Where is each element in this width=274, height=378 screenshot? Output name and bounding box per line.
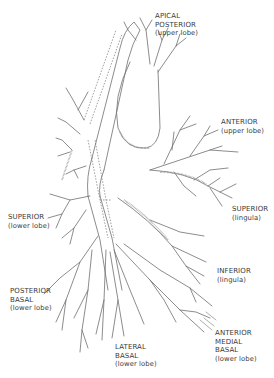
- label-line: POSTERIOR: [155, 21, 198, 30]
- label-anterior-upper: ANTERIOR (upper lobe): [221, 118, 264, 135]
- label-sub: (upper lobe): [155, 29, 198, 38]
- label-line: POSTERIOR: [10, 287, 52, 296]
- label-line: ANTERIOR: [221, 118, 264, 127]
- label-line: BASAL: [10, 296, 52, 305]
- label-sub: (lingula): [217, 276, 251, 285]
- label-sub: (lower lobe): [8, 222, 50, 231]
- superior-lower-branches: [48, 194, 90, 244]
- label-line: MEDIAL: [215, 338, 257, 347]
- label-sub: (lower lobe): [215, 355, 257, 364]
- label-line: BASAL: [215, 346, 257, 355]
- bronchial-tree-diagram: APICAL POSTERIOR (upper lobe) ANTERIOR (…: [0, 0, 274, 378]
- label-line: ANTERIOR: [215, 329, 257, 338]
- label-line: LATERAL: [115, 343, 157, 352]
- label-sub: (lower lobe): [115, 360, 157, 369]
- lingula-superior-branches: [150, 168, 236, 206]
- label-sub: (lingula): [232, 214, 268, 223]
- anterior-medial-basal-branches: [116, 244, 216, 332]
- label-anterior-medial-basal: ANTERIOR MEDIAL BASAL (lower lobe): [215, 329, 257, 363]
- label-line: SUPERIOR: [8, 213, 50, 222]
- label-lateral-basal: LATERAL BASAL (lower lobe): [115, 343, 157, 369]
- label-superior-lingula: SUPERIOR (lingula): [232, 205, 268, 222]
- label-posterior-basal: POSTERIOR BASAL (lower lobe): [10, 287, 52, 313]
- label-sub: (upper lobe): [221, 127, 264, 136]
- label-line: APICAL: [155, 12, 198, 21]
- label-superior-lower: SUPERIOR (lower lobe): [8, 213, 50, 230]
- upper-loop: [62, 62, 160, 180]
- label-inferior-lingula: INFERIOR (lingula): [217, 267, 251, 284]
- label-sub: (lower lobe): [10, 304, 52, 313]
- posterior-basal-branches: [44, 236, 98, 352]
- label-line: SUPERIOR: [232, 205, 268, 214]
- label-line: INFERIOR: [217, 267, 251, 276]
- vessel-tree-drawing: [0, 0, 274, 378]
- left-upper-branches: [56, 88, 88, 178]
- label-line: BASAL: [115, 352, 157, 361]
- label-apical-posterior: APICAL POSTERIOR (upper lobe): [155, 12, 198, 38]
- lateral-basal-branches: [96, 250, 144, 340]
